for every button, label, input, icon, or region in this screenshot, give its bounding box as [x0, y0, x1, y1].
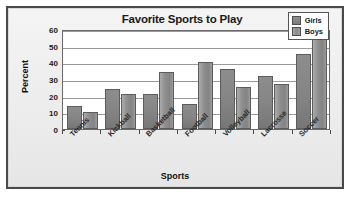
legend-item-girls: Girls	[292, 15, 323, 26]
y-axis-tick-label: 20	[49, 92, 58, 101]
x-axis-tick-mark	[330, 130, 331, 134]
x-axis-title: Sports	[8, 171, 342, 181]
chart-figure-frame: Favorite Sports to Play Girls Boys Perce…	[6, 6, 344, 189]
y-axis-tick-label: 0	[54, 126, 58, 135]
legend-label-girls: Girls	[305, 16, 322, 25]
legend-swatch-boys-icon	[292, 27, 301, 36]
y-axis-tick-label: 40	[49, 59, 58, 68]
bar-group	[296, 31, 327, 129]
bar-group	[105, 31, 136, 129]
y-axis-tick-container: 0102030405060	[30, 30, 62, 130]
legend-swatch-girls-icon	[292, 16, 301, 25]
bar-group	[67, 31, 98, 129]
plot-area	[62, 30, 330, 130]
x-axis-label-container: TennisKickballBasketballFootballVolleyba…	[62, 132, 330, 176]
y-axis-tick-label: 10	[49, 109, 58, 118]
y-axis-tick-label: 50	[49, 42, 58, 51]
legend-item-boys: Boys	[292, 26, 323, 37]
bar-girls-soccer	[296, 54, 311, 129]
y-axis-tick-label: 30	[49, 76, 58, 85]
chart-figure-inner: Favorite Sports to Play Girls Boys Perce…	[8, 8, 342, 187]
bars-layer	[63, 31, 329, 129]
chart-legend: Girls Boys	[288, 12, 329, 40]
legend-label-boys: Boys	[305, 27, 323, 36]
bar-group	[182, 31, 213, 129]
y-axis-tick-label: 60	[49, 26, 58, 35]
